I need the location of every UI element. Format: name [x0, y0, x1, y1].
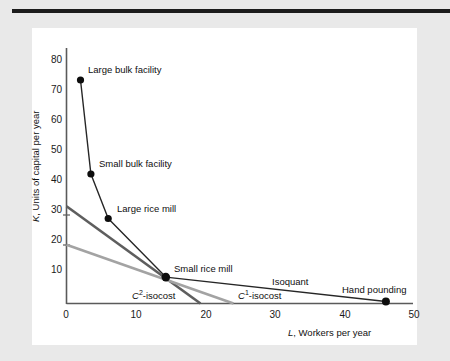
label-isoquant: Isoquant [272, 276, 308, 287]
x-tick-50: 50 [402, 309, 426, 320]
x-tick-40: 40 [333, 309, 357, 320]
x-axis-title-rest: , Workers per year [293, 327, 371, 338]
label-c1-isocost: C1-isocost [238, 289, 282, 301]
label-small-bulk-facility: Small bulk facility [99, 158, 172, 169]
x-axis-title: L, Workers per year [288, 327, 371, 338]
point-small-rice-mill[interactable] [162, 273, 171, 282]
x-tick-30: 30 [263, 309, 287, 320]
point-large-rice-mill[interactable] [105, 215, 112, 222]
point-small-bulk-facility[interactable] [87, 170, 94, 177]
figure-page: 80 70 60 50 40 30 20 10 0 10 20 30 40 50… [0, 0, 450, 361]
y-tick-30: 30 [40, 204, 62, 215]
x-tick-10: 10 [124, 309, 148, 320]
isoquant-curve [81, 80, 386, 302]
point-large-bulk-facility[interactable] [77, 76, 84, 83]
c2-suffix: -isocost [143, 290, 176, 301]
label-small-rice-mill: Small rice mill [174, 263, 233, 274]
y-tick-60: 60 [40, 114, 62, 125]
x-tick-0: 0 [54, 309, 78, 320]
y-tick-80: 80 [40, 54, 62, 65]
c1-symbol: C [238, 290, 245, 301]
isoquant-isocost-chart [0, 0, 450, 361]
y-tick-40: 40 [40, 174, 62, 185]
y-axis-title-symbol: K [30, 216, 41, 222]
y-tick-10: 10 [40, 264, 62, 275]
c2-symbol: C [132, 290, 139, 301]
label-c2-isocost: C2-isocost [132, 289, 176, 301]
x-tick-20: 20 [194, 309, 218, 320]
y-axis-title: K, Units of capital per year [30, 111, 41, 222]
label-large-rice-mill: Large rice mill [117, 203, 176, 214]
point-hand-pounding[interactable] [382, 298, 390, 306]
y-tick-70: 70 [40, 84, 62, 95]
label-large-bulk-facility: Large bulk facility [88, 64, 161, 75]
y-tick-50: 50 [40, 144, 62, 155]
y-tick-20: 20 [40, 234, 62, 245]
label-hand-pounding: Hand pounding [342, 284, 406, 295]
c1-suffix: -isocost [249, 290, 282, 301]
y-axis-title-rest: , Units of capital per year [30, 111, 41, 216]
